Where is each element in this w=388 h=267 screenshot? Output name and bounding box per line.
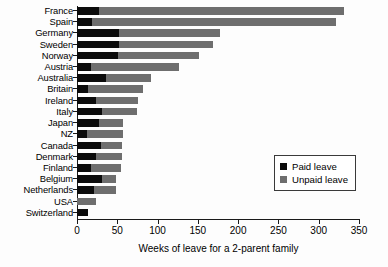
bar-row — [77, 51, 359, 62]
bar-row — [77, 73, 359, 84]
stacked-bar — [77, 209, 88, 217]
stacked-bar — [77, 142, 122, 150]
y-axis-label: Belgium — [0, 174, 73, 185]
bar-segment-unpaid-leave — [99, 7, 345, 15]
bar-segment-paid-leave — [77, 97, 96, 105]
bar-chart: FranceSpainGermanySwedenNorwayAustriaAus… — [0, 0, 388, 267]
y-axis-label: Austria — [0, 62, 73, 73]
stacked-bar — [77, 97, 138, 105]
paid-leave-swatch-icon — [280, 163, 287, 170]
bar-segment-unpaid-leave — [118, 52, 199, 60]
x-axis-tick-label: 0 — [74, 225, 80, 236]
x-axis-tick — [77, 220, 78, 224]
bar-segment-unpaid-leave — [101, 142, 122, 150]
y-axis-label: Switzerland — [0, 208, 73, 219]
legend-item-unpaid-leave: Unpaid leave — [280, 173, 348, 186]
bar-segment-unpaid-leave — [87, 130, 122, 138]
bar-segment-paid-leave — [77, 63, 91, 71]
y-axis-label: Netherlands — [0, 185, 73, 196]
legend-label-paid-leave: Paid leave — [292, 161, 337, 172]
stacked-bar — [77, 63, 179, 71]
stacked-bar — [77, 119, 123, 127]
x-axis-tick-label: 50 — [112, 225, 123, 236]
bar-segment-unpaid-leave — [94, 186, 116, 194]
bar-row — [77, 62, 359, 73]
bar-segment-paid-leave — [77, 85, 88, 93]
x-axis-tick-label: 200 — [230, 225, 247, 236]
y-axis-label: Denmark — [0, 152, 73, 163]
y-axis-label: Spain — [0, 17, 73, 28]
stacked-bar — [77, 108, 137, 116]
y-axis-label: Italy — [0, 107, 73, 118]
unpaid-leave-swatch-icon — [280, 176, 287, 183]
bar-segment-unpaid-leave — [77, 198, 96, 206]
stacked-bar — [77, 29, 220, 37]
stacked-bar — [77, 41, 213, 49]
stacked-bar — [77, 175, 116, 183]
bar-segment-paid-leave — [77, 29, 119, 37]
x-axis-tick — [359, 220, 360, 224]
stacked-bar — [77, 52, 199, 60]
y-axis-label: Norway — [0, 51, 73, 62]
bar-segment-paid-leave — [77, 119, 99, 127]
bar-segment-unpaid-leave — [96, 97, 138, 105]
bar-segment-paid-leave — [77, 7, 99, 15]
bar-row — [77, 17, 359, 28]
y-axis-label: Germany — [0, 28, 73, 39]
bar-segment-unpaid-leave — [92, 18, 337, 26]
x-axis-tick-label: 300 — [310, 225, 327, 236]
stacked-bar — [77, 85, 143, 93]
x-axis-tick-label: 100 — [149, 225, 166, 236]
bar-segment-paid-leave — [77, 186, 94, 194]
bar-row — [77, 107, 359, 118]
bar-segment-unpaid-leave — [88, 85, 143, 93]
x-axis-tick-label: 250 — [270, 225, 287, 236]
legend-item-paid-leave: Paid leave — [280, 160, 348, 173]
x-axis-tick — [198, 220, 199, 224]
y-axis-label: Japan — [0, 118, 73, 129]
bar-segment-unpaid-leave — [91, 63, 180, 71]
y-axis-label: USA — [0, 197, 73, 208]
stacked-bar — [77, 164, 121, 172]
y-axis-label: Canada — [0, 141, 73, 152]
bar-row — [77, 28, 359, 39]
bar-segment-unpaid-leave — [102, 108, 137, 116]
y-axis-label: Finland — [0, 163, 73, 174]
y-axis-category-labels: FranceSpainGermanySwedenNorwayAustriaAus… — [0, 6, 73, 219]
bar-segment-unpaid-leave — [102, 175, 116, 183]
x-axis-tick-label: 350 — [351, 225, 368, 236]
stacked-bar — [77, 7, 344, 15]
bar-segment-paid-leave — [77, 164, 91, 172]
stacked-bar — [77, 18, 336, 26]
bar-segment-paid-leave — [77, 142, 101, 150]
bar-row — [77, 129, 359, 140]
bar-segment-paid-leave — [77, 52, 118, 60]
bar-segment-paid-leave — [77, 130, 87, 138]
y-axis-label: Britain — [0, 84, 73, 95]
chart-legend: Paid leave Unpaid leave — [274, 155, 356, 191]
bar-segment-paid-leave — [77, 175, 102, 183]
bar-row — [77, 96, 359, 107]
stacked-bar — [77, 198, 96, 206]
stacked-bar — [77, 186, 116, 194]
bar-row — [77, 6, 359, 17]
bar-segment-unpaid-leave — [99, 119, 123, 127]
x-axis-tick — [278, 220, 279, 224]
bar-segment-paid-leave — [77, 41, 119, 49]
bar-segment-unpaid-leave — [106, 74, 151, 82]
bar-segment-unpaid-leave — [91, 164, 122, 172]
x-axis-title: Weeks of leave for a 2-parent family — [77, 243, 360, 254]
bar-segment-paid-leave — [77, 74, 106, 82]
bar-segment-unpaid-leave — [96, 153, 122, 161]
x-axis-tick — [158, 220, 159, 224]
x-axis-tick — [238, 220, 239, 224]
bar-row — [77, 208, 359, 219]
bar-row — [77, 197, 359, 208]
bar-segment-paid-leave — [77, 153, 96, 161]
legend-label-unpaid-leave: Unpaid leave — [292, 174, 348, 185]
stacked-bar — [77, 130, 123, 138]
x-axis-tick-label: 150 — [190, 225, 207, 236]
y-axis-label: Ireland — [0, 96, 73, 107]
y-axis-label: Sweden — [0, 40, 73, 51]
bar-segment-paid-leave — [77, 209, 88, 217]
